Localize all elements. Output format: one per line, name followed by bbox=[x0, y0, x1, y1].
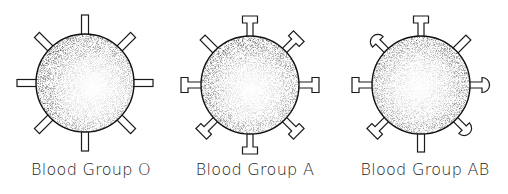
cell-panel-group-a: Blood Group A bbox=[166, 0, 336, 194]
antigen-stub-n bbox=[82, 15, 89, 35]
red-cell-ab-icon bbox=[336, 0, 506, 160]
red-cell-a-icon bbox=[166, 0, 336, 160]
group-a-label: Blood Group A bbox=[170, 160, 340, 179]
antigen-a-top bbox=[414, 16, 429, 37]
red-cell-o-icon bbox=[2, 0, 172, 160]
group-ab-label: Blood Group AB bbox=[340, 160, 508, 179]
antigen-plain-bottom bbox=[418, 133, 425, 152]
group-o-label: Blood Group O bbox=[6, 160, 176, 179]
antigen-a-left bbox=[352, 78, 373, 93]
antigen-b-right bbox=[469, 78, 490, 93]
cell-panel-group-o: Blood Group O bbox=[2, 0, 172, 194]
cell-panel-group-ab: Blood Group AB bbox=[336, 0, 506, 194]
